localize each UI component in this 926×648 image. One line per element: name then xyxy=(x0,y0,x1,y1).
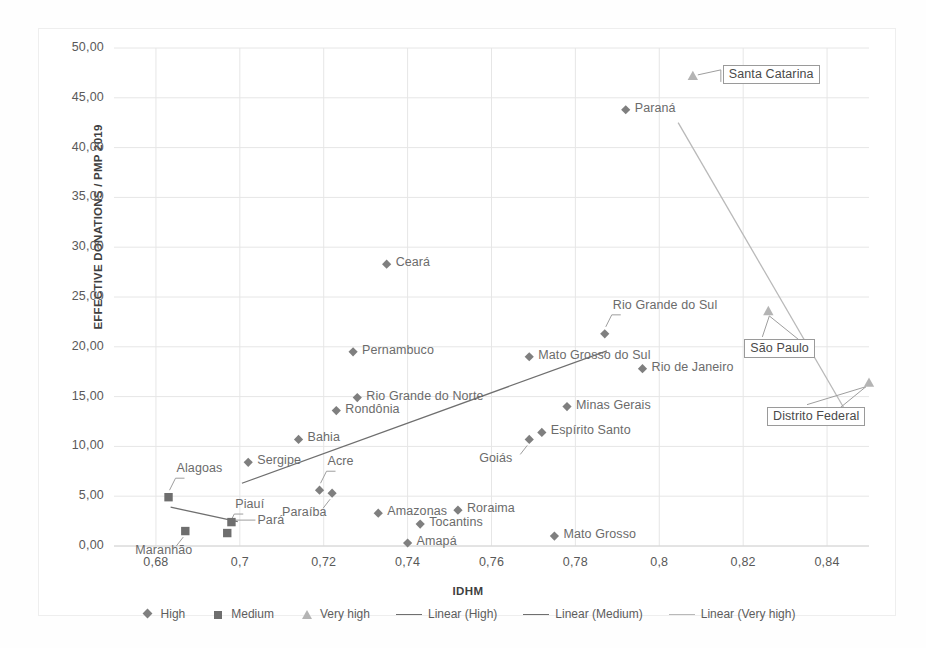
point-label: Tocantins xyxy=(429,515,483,529)
point-label: Sergipe xyxy=(257,453,301,467)
legend-item-label: Linear (Very high) xyxy=(701,607,796,621)
point-label: Rio de Janeiro xyxy=(652,360,734,374)
chart-frame: EFFECTIVE DONATIONS / PMP 2019 IDHM 0,00… xyxy=(38,28,896,616)
callout-são-paulo: São Paulo xyxy=(744,339,815,358)
legend-item-linear-medium[interactable]: Linear (Medium) xyxy=(523,607,642,621)
point-label: Rio Grande do Sul xyxy=(613,298,718,312)
point-label: Piauí xyxy=(235,497,264,511)
leader-lines xyxy=(170,70,866,546)
chart-legend: HighMediumVery highLinear (High)Linear (… xyxy=(39,607,897,621)
point-label: Paraíba xyxy=(282,505,326,519)
trendline-icon xyxy=(396,614,422,615)
triangle-marker-icon xyxy=(300,608,314,620)
legend-item-very-high[interactable]: Very high xyxy=(300,607,370,621)
point-label: Maranhão xyxy=(135,543,192,557)
point-label: Mato Grosso do Sul xyxy=(538,348,650,362)
legend-item-medium[interactable]: Medium xyxy=(211,607,274,621)
trendline-icon xyxy=(523,614,549,615)
legend-item-label: Very high xyxy=(320,607,370,621)
point-label: Amapá xyxy=(417,534,457,548)
point-label: Mato Grosso xyxy=(563,527,636,541)
data-markers xyxy=(164,71,874,548)
chart-page: EFFECTIVE DONATIONS / PMP 2019 IDHM 0,00… xyxy=(0,0,926,648)
legend-item-label: High xyxy=(161,607,186,621)
point-label: Pará xyxy=(257,513,284,527)
point-label: Goiás xyxy=(479,451,512,465)
square-marker-icon xyxy=(211,608,225,620)
point-label: Rio Grande do Norte xyxy=(366,389,483,403)
point-label: Rondônia xyxy=(345,402,399,416)
point-label: Ceará xyxy=(396,255,431,269)
legend-item-label: Medium xyxy=(231,607,274,621)
point-label: Minas Gerais xyxy=(576,398,651,412)
legend-item-high[interactable]: High xyxy=(141,607,186,621)
legend-item-linear-high[interactable]: Linear (High) xyxy=(396,607,497,621)
callout-santa-catarina: Santa Catarina xyxy=(723,65,820,84)
point-label: Paraná xyxy=(635,101,676,115)
point-label: Pernambuco xyxy=(362,343,434,357)
callout-distrito-federal: Distrito Federal xyxy=(767,407,865,426)
legend-item-label: Linear (High) xyxy=(428,607,497,621)
point-label: Roraima xyxy=(467,501,515,515)
point-label: Alagoas xyxy=(177,461,223,475)
legend-item-linear-very-high[interactable]: Linear (Very high) xyxy=(669,607,796,621)
diamond-marker-icon xyxy=(141,608,155,620)
trendline-light-icon xyxy=(669,614,695,615)
point-label: Bahia xyxy=(308,430,340,444)
gridlines xyxy=(114,48,869,546)
point-label: Acre xyxy=(328,454,354,468)
point-label: Espírito Santo xyxy=(551,423,631,437)
legend-item-label: Linear (Medium) xyxy=(555,607,642,621)
